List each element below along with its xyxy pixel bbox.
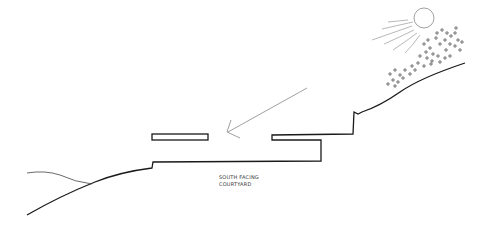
section-sketch	[0, 0, 489, 242]
ground-left-line	[27, 172, 92, 184]
hillside-line	[27, 63, 465, 215]
sun-icon	[414, 8, 434, 28]
courtyard-label: SOUTH FACING COURTYARD	[219, 174, 259, 188]
sunlight-arrow-icon	[227, 88, 307, 138]
upper-slab	[152, 134, 208, 140]
sun-rays	[372, 20, 420, 53]
courtyard-label-line1: SOUTH FACING	[219, 174, 259, 181]
courtyard-label-line2: COURTYARD	[219, 181, 259, 188]
building-section	[27, 63, 465, 215]
